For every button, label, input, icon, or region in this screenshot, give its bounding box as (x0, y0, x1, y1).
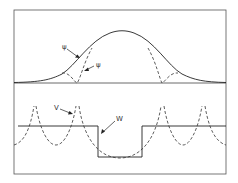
w-label: W (116, 115, 123, 123)
psi-curve-dashed-left (62, 48, 92, 83)
psi-curve-dashed-right (148, 48, 178, 83)
arrowhead-icon (101, 129, 105, 134)
psi-curve-solid (14, 31, 226, 83)
v-potential (14, 106, 226, 158)
psi-pseudo-label: ψ (96, 61, 101, 69)
arrowhead-icon (68, 111, 73, 115)
v-arrow (60, 109, 70, 113)
w-arrow (103, 121, 115, 132)
w-pseudopotential (18, 126, 226, 157)
psi-arrow (67, 49, 78, 57)
outer-frame (14, 10, 226, 174)
pseudopotential-diagram: ψ ψ V W (0, 0, 238, 183)
arrowhead-icon (84, 68, 89, 72)
v-label: V (54, 104, 59, 112)
psi-label: ψ (62, 43, 67, 51)
